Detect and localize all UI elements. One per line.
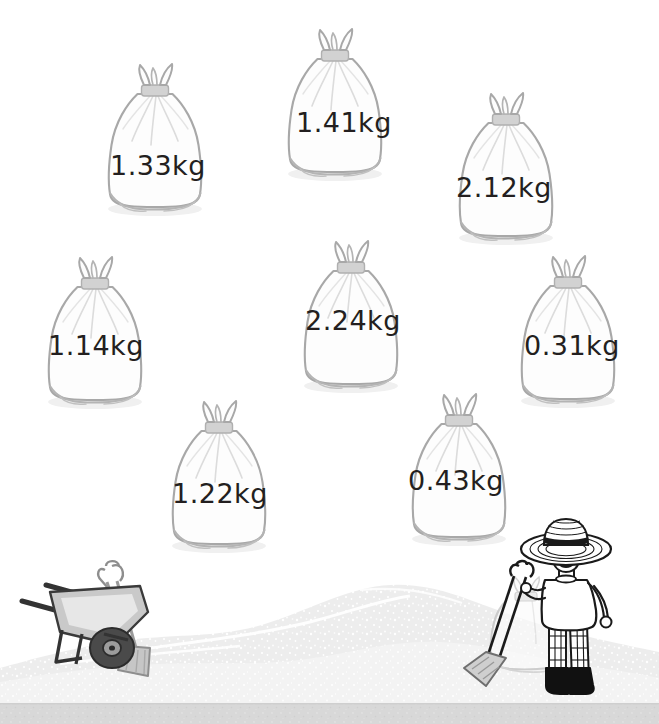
bag-weight-label-4: 1.14kg	[48, 330, 144, 361]
bag-shape-1	[108, 64, 202, 216]
bag-weight-label-3: 2.12kg	[456, 172, 552, 203]
bag-shape-2	[288, 29, 382, 181]
bag-weight-label-8: 0.43kg	[408, 465, 504, 496]
ground-band	[0, 703, 659, 724]
bag-shape-3	[459, 93, 553, 245]
bag-weight-label-6: 0.31kg	[524, 330, 620, 361]
bag-weight-label-5: 2.24kg	[305, 305, 401, 336]
illustration-scene: 1.33kg 1.41kg 2.12kg 1.14kg 2.24kg 0.31k…	[0, 0, 659, 724]
bag-shape-7	[172, 401, 266, 553]
bag-weight-label-2: 1.41kg	[296, 107, 392, 138]
bag-weight-label-7: 1.22kg	[172, 478, 268, 509]
bag-weight-label-1: 1.33kg	[110, 150, 206, 181]
